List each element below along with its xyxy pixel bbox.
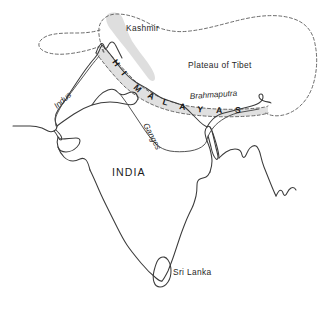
northeast-border	[219, 146, 276, 196]
west-coast	[13, 126, 57, 132]
northwest-border	[55, 45, 102, 126]
dashed-boundaries	[39, 14, 317, 117]
label-brahmaputra: Brahmaputra	[190, 89, 238, 101]
kathiawar-peninsula	[57, 137, 80, 152]
punjab-himalaya-border	[57, 99, 138, 126]
myanmar-east-edge	[276, 188, 296, 196]
east-coast-south	[162, 172, 210, 281]
gujarat-coast	[58, 147, 90, 170]
subcontinent-map: Kashmir Plateau of Tibet Brahmaputra Ind…	[0, 0, 328, 309]
himalaya-letter-y: Y	[197, 104, 204, 114]
map-container: Kashmir Plateau of Tibet Brahmaputra Ind…	[0, 0, 328, 309]
sri-lanka-island	[153, 257, 171, 287]
kashmir-west-loop-boundary	[39, 30, 104, 54]
indus-river	[55, 56, 99, 126]
western-ghats-coast	[90, 170, 162, 281]
label-plateau-of-tibet: Plateau of Tibet	[188, 60, 252, 70]
sri-lanka-outline	[153, 257, 171, 287]
label-sri-lanka: Sri Lanka	[173, 267, 212, 277]
map-labels: Kashmir Plateau of Tibet Brahmaputra Ind…	[52, 23, 252, 277]
himalaya-letter-a3: A	[216, 105, 223, 115]
east-coast-bengal	[207, 141, 212, 172]
label-ganges: Ganges	[141, 122, 162, 152]
label-kashmir: Kashmir	[126, 23, 159, 33]
himalaya-letter-s: S	[235, 105, 241, 115]
label-india: INDIA	[112, 166, 146, 178]
